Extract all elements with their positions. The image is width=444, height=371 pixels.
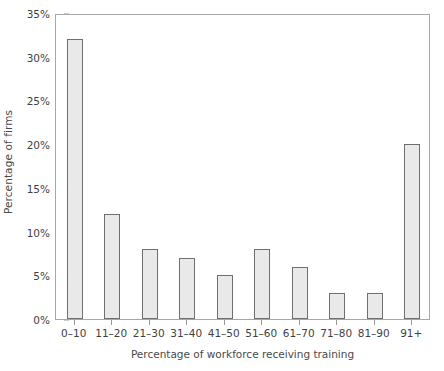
y-axis-tick-label: 15% bbox=[27, 183, 50, 195]
bar bbox=[104, 214, 120, 319]
x-axis-tick-label: 0–10 bbox=[61, 327, 86, 339]
bar bbox=[404, 144, 420, 319]
x-axis-tick-label: 71–80 bbox=[320, 327, 352, 339]
x-axis-tick-mark-group bbox=[55, 320, 430, 326]
x-axis-tick-mark bbox=[261, 320, 262, 325]
x-axis-tick-mark bbox=[374, 320, 375, 325]
y-axis-tick-label: 20% bbox=[27, 139, 50, 151]
y-axis-tick-label: 10% bbox=[27, 227, 50, 239]
x-axis-title: Percentage of workforce receiving traini… bbox=[55, 348, 430, 360]
x-axis-tick-mark bbox=[186, 320, 187, 325]
bar bbox=[367, 293, 383, 319]
x-axis-tick-label: 91+ bbox=[400, 327, 422, 339]
x-axis-tick-label: 51–60 bbox=[245, 327, 277, 339]
x-axis-tick-label: 41–50 bbox=[208, 327, 240, 339]
y-axis-tick-label: 0% bbox=[33, 314, 50, 326]
plot-area bbox=[55, 14, 430, 320]
bars-layer bbox=[56, 15, 429, 319]
x-axis-tick-mark bbox=[111, 320, 112, 325]
bar bbox=[67, 39, 83, 319]
x-axis-tick-mark bbox=[411, 320, 412, 325]
x-axis-tick-label: 81–90 bbox=[358, 327, 390, 339]
bar-chart-figure: Percentage of firms 0%5%10%15%20%25%30%3… bbox=[0, 0, 444, 371]
bar bbox=[142, 249, 158, 319]
bar bbox=[292, 267, 308, 319]
x-axis-tick-label-group: 0–1011–2021–3031–4041–5051–6061–7071–808… bbox=[55, 327, 430, 343]
x-axis-tick-label: 11–20 bbox=[95, 327, 127, 339]
bar bbox=[329, 293, 345, 319]
y-axis-tick-label: 35% bbox=[27, 8, 50, 20]
bar bbox=[254, 249, 270, 319]
x-axis-tick-mark bbox=[224, 320, 225, 325]
x-axis-tick-mark bbox=[149, 320, 150, 325]
bar bbox=[179, 258, 195, 319]
x-axis-tick-label: 61–70 bbox=[283, 327, 315, 339]
x-axis-tick-label: 31–40 bbox=[170, 327, 202, 339]
bar bbox=[217, 275, 233, 319]
y-axis-tick-label-group: 0%5%10%15%20%25%30%35% bbox=[14, 14, 50, 320]
x-axis-tick-label: 21–30 bbox=[133, 327, 165, 339]
x-axis-tick-mark bbox=[299, 320, 300, 325]
x-axis-tick-mark bbox=[336, 320, 337, 325]
y-axis-tick-label: 30% bbox=[27, 52, 50, 64]
y-axis-tick-label: 25% bbox=[27, 95, 50, 107]
y-axis-tick-label: 5% bbox=[33, 270, 50, 282]
x-axis-tick-mark bbox=[74, 320, 75, 325]
